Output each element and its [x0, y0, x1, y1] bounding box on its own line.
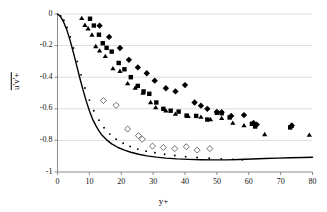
data-point-diamond	[218, 109, 224, 115]
data-point-triangle	[125, 81, 130, 85]
data-point-square	[129, 75, 133, 79]
data-point-square	[147, 92, 151, 96]
data-point-diamond	[172, 146, 178, 152]
x-tick-label: 30	[139, 177, 167, 186]
data-point-dot	[98, 119, 100, 121]
data-point-square	[104, 46, 108, 50]
data-point-diamond	[172, 88, 178, 94]
y-tick-label: -0.8	[21, 135, 53, 144]
data-point-square	[168, 108, 172, 112]
data-point-square	[205, 117, 209, 121]
x-tick-label: 0	[44, 177, 72, 186]
axis-ticks	[55, 14, 313, 175]
series-open-diamond	[100, 98, 213, 154]
data-point-dot	[137, 148, 139, 150]
data-point-dot	[122, 142, 124, 144]
data-point-dot	[185, 156, 187, 158]
data-point-triangle	[262, 132, 267, 136]
data-point-triangle	[307, 132, 312, 136]
data-point-diamond	[204, 106, 210, 112]
data-point-triangle	[117, 69, 122, 73]
data-point-diamond	[191, 99, 197, 105]
data-point-diamond	[149, 143, 155, 149]
data-point-diamond	[96, 23, 102, 29]
data-point-dot	[103, 127, 105, 129]
data-point-square	[92, 23, 96, 27]
x-tick-label: 10	[75, 177, 103, 186]
data-point-triangle	[89, 32, 94, 36]
x-tick-label: 40	[171, 177, 199, 186]
data-point-dot	[196, 157, 198, 159]
x-tick-label: 60	[235, 177, 263, 186]
data-point-dot	[145, 150, 147, 152]
data-point-diamond	[182, 82, 188, 88]
chart-figure: u'v'+ y+ 0-0.2-0.4-0.6-0.8-1010203040506…	[0, 0, 327, 212]
data-point-square	[176, 109, 180, 113]
data-point-dot	[109, 133, 111, 135]
data-point-dot	[129, 145, 131, 147]
series-filled-diamond	[96, 23, 295, 129]
data-point-triangle	[241, 123, 246, 127]
data-point-dot	[115, 138, 117, 140]
data-point-diamond	[144, 70, 150, 76]
data-point-dot	[84, 87, 86, 89]
data-point-dot	[88, 99, 90, 101]
y-axis-title: u'v'+	[11, 53, 21, 109]
data-point-triangle	[198, 114, 203, 118]
data-point-triangle	[97, 48, 102, 52]
data-point-triangle	[153, 105, 158, 109]
data-point-square	[141, 89, 145, 93]
data-point-square	[136, 84, 140, 88]
data-point-diamond	[163, 85, 169, 91]
x-axis-title: y+	[0, 196, 327, 206]
data-point-dot	[164, 153, 166, 155]
data-point-diamond	[241, 112, 247, 118]
data-point-diamond	[100, 98, 106, 104]
data-point-dot	[80, 74, 82, 76]
y-tick-label: -1	[21, 167, 53, 176]
data-point-dot	[76, 60, 78, 62]
series-filled-triangle	[79, 16, 312, 137]
data-point-diamond	[125, 126, 131, 132]
data-point-triangle	[103, 54, 108, 58]
y-tick-label: 0	[21, 9, 53, 18]
data-point-diamond	[207, 146, 213, 152]
y-tick-label: -0.2	[21, 40, 53, 49]
data-point-square	[88, 17, 92, 21]
data-point-square	[101, 41, 105, 45]
grid-lines	[58, 14, 313, 140]
data-point-triangle	[148, 100, 153, 104]
data-point-diamond	[113, 102, 119, 108]
data-point-triangle	[230, 120, 235, 124]
data-point-square	[184, 113, 188, 117]
x-tick-label: 20	[107, 177, 135, 186]
data-point-dot	[93, 110, 95, 112]
data-point-triangle	[219, 116, 224, 120]
data-point-diamond	[198, 102, 204, 108]
data-point-dot	[154, 152, 156, 154]
data-point-square	[117, 61, 121, 65]
data-point-square	[97, 32, 101, 36]
data-point-triangle	[110, 66, 115, 70]
data-point-square	[109, 49, 113, 53]
data-point-triangle	[82, 23, 87, 27]
y-tick-label: -0.6	[21, 103, 53, 112]
data-point-square	[154, 100, 158, 104]
data-point-dot	[208, 157, 210, 159]
series-dotted-line-series	[60, 15, 244, 161]
series-filled-square	[88, 17, 293, 130]
data-point-triangle	[79, 16, 84, 20]
x-tick-label: 50	[203, 177, 231, 186]
y-tick-label: -0.4	[21, 72, 53, 81]
data-point-square	[194, 114, 198, 118]
data-point-square	[161, 107, 165, 111]
data-point-diamond	[194, 147, 200, 153]
data-point-diamond	[183, 144, 189, 150]
data-point-square	[122, 67, 126, 71]
x-tick-label: 80	[299, 177, 327, 186]
data-point-diamond	[135, 64, 141, 70]
data-point-diamond	[152, 78, 158, 84]
data-point-diamond	[106, 34, 112, 40]
data-point-diamond	[160, 144, 166, 150]
x-tick-label: 70	[267, 177, 295, 186]
